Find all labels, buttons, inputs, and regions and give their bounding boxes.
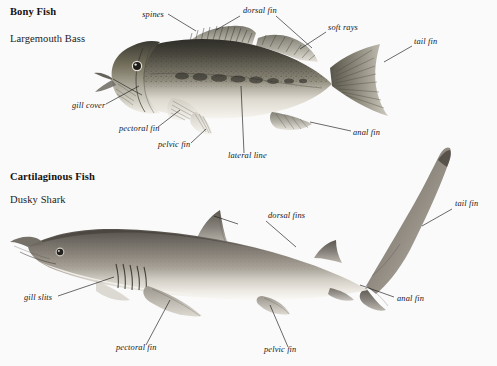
callout-shark-gill-slits: gill slits [24, 293, 52, 302]
diagram-page: Bony Fish Largemouth Bass Cartilaginous … [0, 0, 497, 366]
callout-shark-anal-fin: anal fin [397, 294, 424, 303]
callout-bass-pectoral-fin: pectoral fin [119, 124, 160, 133]
callout-bass-lateral-line: lateral line [228, 151, 267, 160]
shark-illustration [0, 0, 497, 366]
callout-bass-soft-rays: soft rays [328, 23, 358, 32]
callout-shark-tail-fin: tail fin [455, 199, 478, 208]
section-subject-largemouth-bass: Largemouth Bass [10, 33, 85, 44]
callout-bass-anal-fin: anal fin [353, 128, 380, 137]
callout-bass-pelvic-fin: pelvic fin [158, 140, 190, 149]
callout-bass-tail-fin: tail fin [414, 37, 437, 46]
section-heading-cartilaginous-fish: Cartilaginous Fish [10, 171, 95, 182]
shark-tail-fin [360, 147, 451, 310]
callout-shark-pectoral-fin: pectoral fin [116, 343, 157, 352]
callout-shark-pelvic-fin: pelvic fin [264, 345, 296, 354]
section-heading-bony-fish: Bony Fish [10, 6, 56, 17]
section-subject-dusky-shark: Dusky Shark [10, 194, 66, 205]
callout-bass-gill-cover: gill cover [72, 101, 105, 110]
shark-second-dorsal-fin [314, 240, 342, 263]
callout-shark-dorsal-fins: dorsal fins [268, 211, 305, 220]
callout-bass-spines: spines [142, 10, 164, 19]
shark-body [24, 225, 374, 305]
callout-bass-dorsal-fin: dorsal fin [243, 6, 277, 15]
